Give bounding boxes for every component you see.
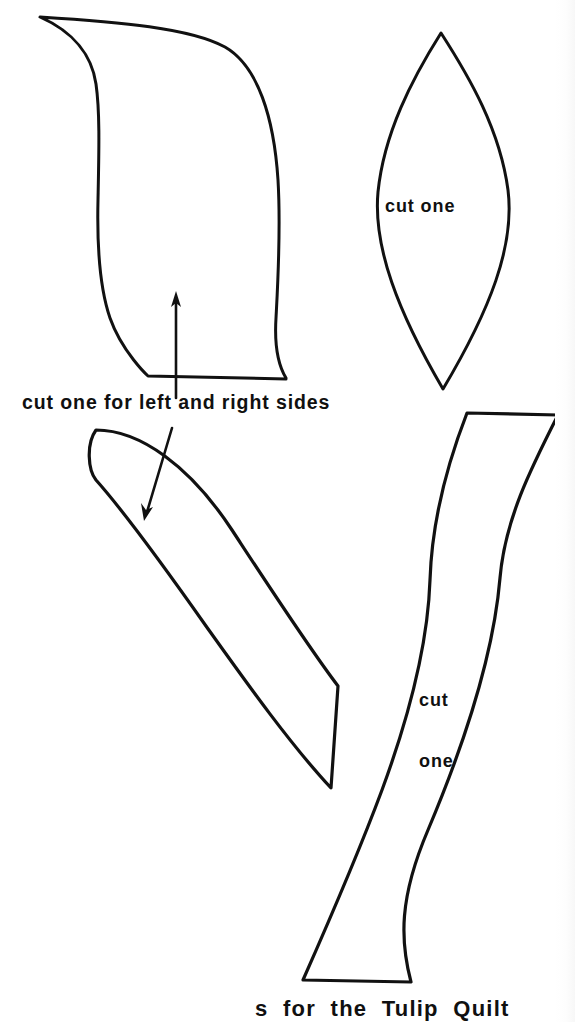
bottom-caption: s for the Tulip Quilt [255,1000,509,1022]
bottom-caption-clip: s for the Tulip Quilt [0,1000,575,1022]
crescent-outline [89,430,338,788]
label-stem-line2: one [419,751,454,771]
crescent-template [89,428,338,788]
label-stem-line1: cut [419,690,454,710]
label-cut-one-leaf: cut one [385,196,455,216]
pattern-sheet: cut one for left and right sides cut one… [0,0,575,1022]
grain-arrow-down-icon [141,428,172,521]
petal-outline [40,17,286,379]
grain-arrow-up-icon [171,291,181,398]
label-cut-one-left-and-right-sides: cut one for left and right sides [22,392,330,414]
label-cut-one-stem: cut one [419,650,454,811]
pattern-template-drawing [0,0,575,1022]
petal-left-right-template [40,17,286,398]
